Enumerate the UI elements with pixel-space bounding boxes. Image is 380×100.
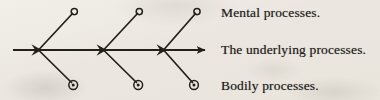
lower-branch-3: [164, 51, 193, 83]
diagram-canvas: Mental processes. The underlying process…: [0, 0, 380, 100]
label-underlying-processes: The underlying processes.: [221, 43, 366, 57]
label-mental-processes: Mental processes.: [221, 6, 320, 20]
mental-endpoint-2: [136, 9, 142, 15]
upper-branch-1: [39, 14, 73, 50]
upper-branch-2: [104, 14, 138, 50]
mental-endpoint-1: [71, 9, 77, 15]
bodily-endpoint-2: [134, 81, 143, 90]
lower-branch-2: [104, 51, 137, 83]
bodily-endpoint-3: [190, 81, 199, 90]
bodily-endpoint-1: [69, 81, 78, 90]
upper-branch-3: [164, 14, 196, 50]
mental-endpoint-3: [194, 9, 200, 15]
lower-branch-1: [39, 51, 72, 83]
label-bodily-processes: Bodily processes.: [221, 79, 319, 93]
